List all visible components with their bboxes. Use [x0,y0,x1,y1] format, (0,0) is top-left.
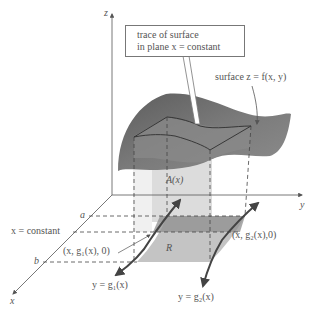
x-constant-label: x = constant [11,226,60,236]
curve-g1-label: y = g₁(x) [92,280,128,290]
callout-line2: in plane x = constant [137,41,244,53]
curve-g2-label: y = g₂(x) [178,292,214,302]
area-label: A(x) [166,175,183,185]
diagram-canvas: trace of surface in plane x = constant z… [0,0,312,309]
y-axis-label: y [300,200,304,210]
point-g1-label: (x, g₁(x), 0) [63,246,110,256]
b-label: b [34,256,39,266]
surface-label: surface z = f(x, y) [215,72,286,82]
surface [118,94,291,171]
callout-box: trace of surface in plane x = constant [125,25,245,57]
region-r [137,216,245,262]
z-axis-label: z [104,8,108,18]
x-axis-label: x [10,296,14,306]
a-label: a [80,210,85,220]
callout-line1: trace of surface [137,29,244,41]
region-label: R [166,243,172,253]
point-g2-label: (x, g₂(x),0) [232,230,276,240]
